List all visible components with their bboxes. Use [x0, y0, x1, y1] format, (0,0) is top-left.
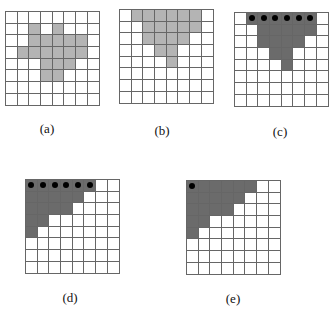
grid-cell [235, 25, 247, 37]
grid-cell [222, 216, 234, 228]
grid-cell [132, 33, 144, 45]
grid-cell [132, 22, 144, 34]
grid-cell [202, 33, 214, 45]
grid-cell [167, 10, 179, 22]
grid-cell [317, 71, 329, 83]
grid-cell [190, 10, 202, 22]
grid-cell [269, 204, 281, 216]
grid-cell [61, 262, 73, 274]
grid-cell [222, 193, 234, 205]
grid-cell [76, 82, 88, 94]
grid-cell [247, 48, 259, 60]
grid-cell [29, 35, 41, 47]
seed-dot-icon [249, 15, 255, 21]
grid-cell [6, 70, 18, 82]
grid-cell [73, 192, 85, 204]
grid-cell [234, 263, 246, 275]
grid-cell [143, 10, 155, 22]
grid-cell [6, 12, 18, 24]
grid-cell [155, 45, 167, 57]
grid-cell [49, 238, 61, 250]
grid-cell [293, 95, 305, 107]
grid-cell [187, 239, 199, 251]
seed-dot-icon [87, 182, 93, 188]
grid-cell [190, 92, 202, 104]
panel-label-a: (a) [40, 121, 54, 137]
grid-cell [257, 193, 269, 205]
grid-cell [317, 48, 329, 60]
grid-cell [247, 83, 259, 95]
grid-cell [76, 70, 88, 82]
grid-cell [6, 82, 18, 94]
grid-cell [155, 80, 167, 92]
grid-cell [222, 228, 234, 240]
grid-cell [258, 36, 270, 48]
grid-cell [120, 45, 132, 57]
grid-cell [210, 228, 222, 240]
grid-cell [88, 12, 100, 24]
grid-cell [132, 80, 144, 92]
grid-cell [120, 57, 132, 69]
grid-cell [132, 45, 144, 57]
grid-cell [247, 60, 259, 72]
grid-cell [270, 48, 282, 60]
grid-cell [257, 181, 269, 193]
grid-cell [222, 239, 234, 251]
grid-cell [6, 94, 18, 106]
grid-cell [235, 48, 247, 60]
grid-cell [26, 180, 38, 192]
grid-cell [76, 59, 88, 71]
grid-cell [258, 25, 270, 37]
grid-cell [73, 250, 85, 262]
grid-cell [49, 203, 61, 215]
grid-cell [132, 57, 144, 69]
grid-cell [167, 22, 179, 34]
grid-cell [120, 22, 132, 34]
grid-cell [49, 250, 61, 262]
grid-cell [258, 95, 270, 107]
grid-cell [96, 262, 108, 274]
grid-cell [38, 250, 50, 262]
grid-cell [6, 47, 18, 59]
grid-cell [61, 192, 73, 204]
grid-cell [73, 203, 85, 215]
grid-cell [64, 70, 76, 82]
grid-cell [269, 263, 281, 275]
grid-cell [247, 13, 259, 25]
grid-cell [41, 94, 53, 106]
grid-cell [143, 80, 155, 92]
grid-cell [84, 203, 96, 215]
grid-cell [132, 92, 144, 104]
grid-cell [199, 228, 211, 240]
grid-cell [234, 181, 246, 193]
grid-cell [96, 180, 108, 192]
grid-cell [73, 238, 85, 250]
grid-cell [143, 92, 155, 104]
grid-cell [96, 227, 108, 239]
grid-cell [190, 68, 202, 80]
grid-cell [305, 83, 317, 95]
grid-cell [187, 181, 199, 193]
grid-cell [38, 262, 50, 274]
grid-cell [73, 227, 85, 239]
grid-cell [41, 12, 53, 24]
grid-cell [234, 193, 246, 205]
grid-cell [245, 251, 257, 263]
grid-cell [108, 192, 120, 204]
grid-cell [108, 238, 120, 250]
grid-cell [270, 95, 282, 107]
grid-cell [143, 68, 155, 80]
seed-dot-icon [52, 182, 58, 188]
grid-cell [187, 228, 199, 240]
grid-cell [29, 47, 41, 59]
grid-cell [234, 204, 246, 216]
grid-cell [108, 250, 120, 262]
grid-cell [222, 251, 234, 263]
seed-dot-icon [189, 183, 195, 189]
grid-cell [282, 60, 294, 72]
grid-cell [282, 71, 294, 83]
grid-cell [29, 59, 41, 71]
seed-dot-icon [40, 182, 46, 188]
grid-cell [282, 13, 294, 25]
grid-cell [76, 35, 88, 47]
